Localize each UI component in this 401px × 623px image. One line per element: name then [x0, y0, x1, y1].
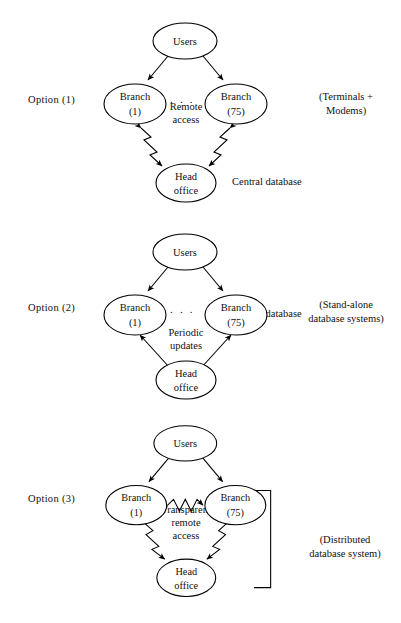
node-users-label: Users: [174, 438, 197, 449]
edge-users-branch1: [148, 56, 168, 80]
node-branch-75-label: Branch: [220, 492, 251, 503]
edge-head-office-branch75: [201, 335, 231, 368]
node-branch-75-label: Branch: [221, 91, 252, 102]
node-head-office-sublabel: office: [174, 580, 198, 591]
option-2-diagram: Option (2) (Stand-alone database systems…: [0, 208, 401, 416]
edge-users-branch75: [203, 56, 223, 80]
option-1-graph: Users Branch (1) Branch (75) Head office: [0, 0, 401, 208]
edge-users-branch75: [203, 458, 223, 482]
node-branch-1: Branch (1): [104, 84, 166, 124]
option-1-diagram: Option (1) (Terminals + Modems) Central …: [0, 0, 401, 208]
node-head-office-sublabel: office: [174, 185, 199, 196]
node-head-office-label: Head: [175, 368, 198, 379]
node-branch-75: Branch (75): [205, 295, 267, 335]
node-users-label: Users: [173, 247, 197, 258]
node-branch-1-label: Branch: [120, 91, 151, 102]
node-branch-1-label: Branch: [121, 492, 152, 503]
node-head-office: Head office: [156, 164, 216, 202]
node-branch-1-label: Branch: [120, 302, 151, 313]
node-branch-75: Branch (75): [205, 84, 267, 124]
zigzag-branch1-head-office: [143, 522, 165, 559]
edge-users-branch1: [148, 267, 168, 291]
edge-users-branch75: [203, 267, 223, 291]
option-3-graph: Users Branch (1) Branch (75) Head office: [0, 411, 401, 619]
node-branch-75-number: (75): [227, 106, 245, 118]
node-branch-1: Branch (1): [104, 295, 166, 335]
node-branch-75: Branch (75): [205, 486, 266, 525]
node-branch-1-number: (1): [130, 507, 142, 519]
option-3-diagram: Option (3) (Distributed database system)…: [0, 411, 401, 619]
node-branch-75-number: (75): [227, 317, 245, 329]
node-users: Users: [154, 426, 217, 461]
node-users: Users: [153, 23, 217, 59]
zigzag-branch75-head-office: [207, 522, 229, 559]
node-head-office-sublabel: office: [174, 382, 199, 393]
node-branch-75-label: Branch: [221, 302, 252, 313]
zigzag-branch75-head-office: [209, 128, 230, 166]
node-branch-1-number: (1): [129, 317, 142, 329]
zigzag-branch1-branch75: [168, 499, 203, 511]
node-users: Users: [153, 234, 217, 270]
node-branch-1: Branch (1): [106, 486, 167, 525]
edge-head-office-branch1: [140, 335, 170, 368]
figure-canvas: Option (1) (Terminals + Modems) Central …: [0, 0, 401, 623]
zigzag-branch1-head-office: [141, 128, 162, 166]
node-head-office-label: Head: [175, 171, 198, 182]
node-branch-1-number: (1): [129, 106, 142, 118]
node-users-label: Users: [173, 36, 197, 47]
option-2-graph: Users Branch (1) Branch (75) Head office: [0, 208, 401, 416]
node-head-office: Head office: [156, 361, 216, 399]
edge-users-branch1: [149, 458, 169, 482]
node-branch-75-number: (75): [227, 507, 244, 519]
node-head-office: Head office: [157, 559, 216, 596]
node-head-office-label: Head: [175, 566, 198, 577]
